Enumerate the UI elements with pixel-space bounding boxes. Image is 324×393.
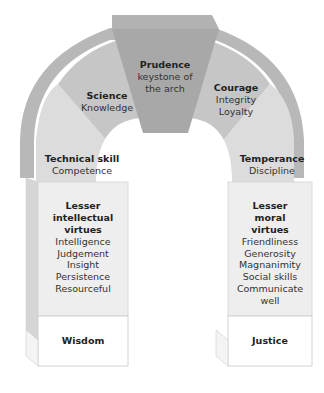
right-pillar-item: Communicate	[228, 283, 312, 295]
right-pillar-item: well	[228, 295, 312, 307]
justice-label: Justice	[228, 335, 312, 347]
right-pillar-item: Magnanimity	[228, 259, 312, 271]
right-pillar-item: Friendliness	[228, 236, 312, 248]
right-pillar-item: Generosity	[228, 248, 312, 260]
wisdom-label: Wisdom	[38, 335, 128, 347]
keystone-title: Prudence	[130, 59, 200, 71]
keystone-top	[112, 15, 219, 29]
right-pillar-heading: virtues	[228, 224, 312, 236]
technical-skill-label: Technical skill Competence	[34, 153, 130, 177]
left-pillar-item: Resourceful	[38, 283, 128, 295]
courage-line: Loyalty	[206, 106, 266, 118]
courage-title: Courage	[206, 82, 266, 94]
right-pillar-label: Lesser moral virtues Friendliness Genero…	[228, 200, 312, 307]
science-label: Science Knowledge	[72, 90, 142, 114]
left-pillar-heading: virtues	[38, 224, 128, 236]
temperance-line: Discipline	[230, 165, 314, 177]
left-pillar-item: Persistence	[38, 271, 128, 283]
right-pillar-heading: moral	[228, 212, 312, 224]
right-pillar-heading: Lesser	[228, 200, 312, 212]
left-pillar-label: Lesser intellectual virtues Intelligence…	[38, 200, 128, 295]
science-line: Knowledge	[72, 102, 142, 114]
left-pillar-item: Insight	[38, 259, 128, 271]
right-pillar-item: Social skills	[228, 271, 312, 283]
justice-title: Justice	[228, 335, 312, 347]
temperance-label: Temperance Discipline	[230, 153, 314, 177]
courage-line: Integrity	[206, 94, 266, 106]
temperance-title: Temperance	[230, 153, 314, 165]
left-pillar-side	[26, 178, 38, 340]
technical-skill-line: Competence	[34, 165, 130, 177]
wisdom-title: Wisdom	[38, 335, 128, 347]
courage-label: Courage Integrity Loyalty	[206, 82, 266, 118]
left-pillar-heading: Lesser	[38, 200, 128, 212]
science-title: Science	[72, 90, 142, 102]
left-pillar-heading: intellectual	[38, 212, 128, 224]
keystone-line: keystone of	[130, 71, 200, 83]
technical-skill-title: Technical skill	[34, 153, 130, 165]
left-pillar-item: Intelligence	[38, 236, 128, 248]
left-pillar-item: Judgement	[38, 248, 128, 260]
